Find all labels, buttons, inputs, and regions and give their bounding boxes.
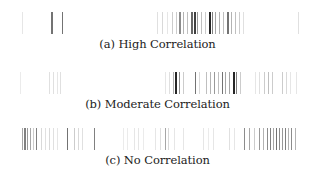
barcode-bar	[222, 72, 223, 94]
barcode-bar	[291, 128, 292, 150]
barcode-bar	[78, 128, 79, 150]
barcode-bar	[219, 12, 220, 34]
barcode-bar	[27, 128, 28, 150]
barcode-bar	[94, 128, 95, 150]
barcode-bar	[290, 72, 291, 94]
barcode-bar	[210, 72, 211, 94]
barcode-bar	[138, 128, 139, 150]
barcode-bar	[187, 12, 188, 34]
barcode-bar	[22, 12, 23, 34]
barcode-bar	[183, 128, 184, 150]
barcode-bar	[123, 128, 124, 150]
barcode-bar	[183, 12, 184, 34]
barcode-bar	[282, 72, 283, 94]
barcode-bar	[33, 128, 34, 150]
barcode-bar	[229, 128, 230, 150]
barcode-bar	[30, 128, 31, 150]
barcode-bar	[282, 128, 283, 150]
barcode-bar	[264, 72, 265, 94]
barcode-bar	[173, 72, 174, 94]
barcode-bar	[239, 12, 240, 34]
barcode-bar	[199, 72, 200, 94]
barcode-bar	[41, 128, 42, 150]
barcode-bar	[285, 128, 286, 150]
barcode-bar	[49, 72, 50, 94]
barcode-bar	[53, 128, 54, 150]
barcode-bar	[22, 128, 23, 150]
barcode-bar	[74, 128, 75, 150]
barcode-bar	[273, 128, 274, 150]
barcode-bar	[276, 128, 277, 150]
caption-b: (b) Moderate Correlation	[0, 97, 315, 111]
barcode-bar	[201, 12, 202, 34]
barcode-bar	[82, 128, 83, 150]
barcode-bar	[249, 128, 250, 150]
barcode-bar	[197, 12, 198, 34]
barcode-bar	[157, 12, 158, 34]
barcode-bar	[49, 128, 50, 150]
barcode-bar	[259, 128, 260, 150]
barcode-bar	[288, 128, 289, 150]
barcode-bar	[194, 12, 196, 34]
barcode-bar	[165, 72, 166, 94]
barcode-bar	[279, 128, 280, 150]
barcode-bar	[255, 72, 256, 94]
barcode-bar	[175, 72, 177, 94]
barcode-bar	[259, 72, 260, 94]
barcode-bar	[235, 12, 236, 34]
barcode-bar	[162, 12, 163, 34]
barcode-bar	[243, 12, 244, 34]
barcode-bar	[143, 128, 144, 150]
barcode-bar	[234, 128, 235, 150]
barcode-bar	[62, 12, 63, 34]
barcode-bar	[20, 72, 21, 94]
barcode-bar	[155, 128, 156, 150]
caption-c: (c) No Correlation	[0, 153, 315, 167]
barcode-bar	[272, 72, 273, 94]
barcode-bar	[233, 72, 235, 94]
barcode-bar	[212, 12, 213, 34]
barcode-bar	[229, 72, 230, 94]
barcode-bar	[127, 128, 128, 150]
barcode-bar	[231, 12, 232, 34]
barcode-strip-a	[0, 12, 315, 34]
barcode-bar	[227, 12, 229, 34]
barcode-bar	[45, 128, 46, 150]
barcode-bar	[215, 12, 216, 34]
barcode-bar	[165, 128, 166, 150]
barcode-bar	[191, 12, 193, 34]
barcode-bar	[203, 128, 204, 150]
barcode-bar	[223, 12, 224, 34]
barcode-bar	[296, 72, 297, 94]
barcode-bar	[24, 128, 26, 150]
barcode-strip-b	[0, 72, 315, 94]
barcode-bar	[195, 72, 196, 94]
barcode-bar	[167, 12, 168, 34]
barcode-bar	[168, 128, 169, 150]
barcode-bar	[298, 12, 299, 34]
barcode-bar	[267, 128, 268, 150]
barcode-bar	[60, 72, 61, 94]
barcode-bar	[36, 128, 37, 150]
barcode-bar	[270, 128, 271, 150]
barcode-bar	[208, 128, 209, 150]
barcode-bar	[213, 128, 214, 150]
barcode-bar	[205, 12, 206, 34]
barcode-bar	[169, 72, 170, 94]
barcode-bar	[263, 128, 264, 150]
barcode-bar	[51, 12, 53, 34]
barcode-bar	[172, 12, 173, 34]
barcode-bar	[57, 128, 58, 150]
barcode-bar	[236, 72, 237, 94]
barcode-bar	[67, 128, 68, 150]
barcode-bar	[179, 72, 180, 94]
barcode-bar	[160, 128, 161, 150]
barcode-bar	[179, 12, 181, 34]
barcode-bar	[53, 72, 54, 94]
barcode-bar	[244, 128, 245, 150]
barcode-bar	[214, 72, 215, 94]
barcode-bar	[286, 72, 287, 94]
barcode-bar	[240, 72, 241, 94]
barcode-bar	[254, 128, 255, 150]
barcode-bar	[218, 72, 219, 94]
